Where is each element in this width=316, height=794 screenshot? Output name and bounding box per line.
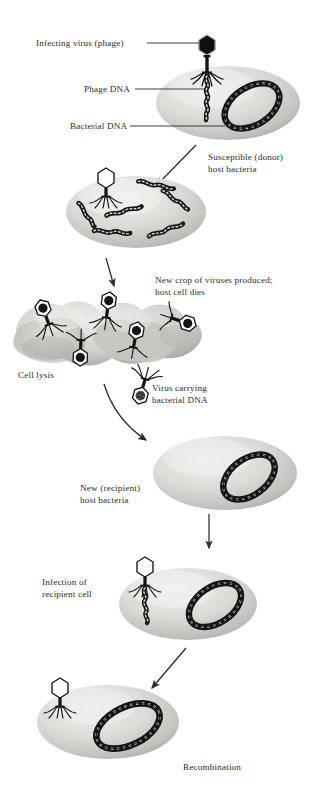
stage-5-infection-of-recipient — [119, 557, 257, 640]
label-infecting-virus: Infecting virus (phage) — [36, 38, 124, 50]
label-recombination: Recombination — [183, 762, 241, 774]
stage-6-recombination — [37, 678, 179, 759]
label-bacterial-dna: Bacterial DNA — [70, 121, 127, 133]
label-virus-carrying-bacterial-dna: Virus carrying bacterial DNA — [152, 383, 208, 406]
stage-1-donor-infection — [130, 35, 300, 140]
arrow-stage5-to-stage6 — [152, 648, 186, 688]
arrow-stage2-to-stage3 — [106, 258, 114, 286]
phage-dna-injected — [206, 76, 208, 120]
label-susceptible-donor-host-bacteria: Susceptible (donor) host bacteria — [208, 152, 283, 175]
stage-3-cell-lysis — [13, 290, 202, 367]
transduction-figure: Infecting virus (phage) Phage DNA Bacter… — [0, 0, 316, 794]
phage-head-icon — [137, 557, 153, 577]
phage-tail — [205, 57, 208, 73]
label-new-crop-of-viruses: New crop of viruses produced; host cell … — [155, 275, 273, 298]
phage-head-icon — [98, 168, 114, 188]
label-infection-of-recipient-cell: Infection of recipient cell — [42, 577, 92, 600]
stage-4-new-recipient — [153, 436, 297, 510]
label-phage-dna: Phage DNA — [84, 84, 130, 96]
label-new-recipient-host-bacteria: New (recipient) host bacteria — [80, 483, 140, 506]
label-cell-lysis: Cell lysis — [18, 370, 54, 382]
phage-head-icon — [52, 678, 68, 698]
stage-2-dna-fragmented — [66, 168, 206, 248]
